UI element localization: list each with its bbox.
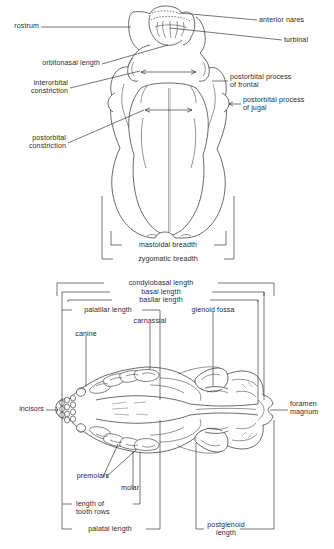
label-basilar-length: basilar length bbox=[112, 296, 210, 304]
ventral-skull-drawing bbox=[56, 367, 273, 453]
label-anterior-nares: anterior nares bbox=[259, 16, 334, 24]
label-palatal-length: palatal length bbox=[74, 525, 146, 533]
label-palatilar-length: palatilar length bbox=[74, 306, 142, 314]
dorsal-leader-lines bbox=[41, 13, 282, 259]
label-foramen-magnum: foramen magnum bbox=[290, 400, 334, 417]
label-postglenoid-length: postglenoid length bbox=[196, 521, 256, 538]
label-condylobasal-length: condylobasal length bbox=[104, 279, 218, 287]
label-turbinal: turbinal bbox=[284, 36, 334, 44]
label-zygomatic-breadth: zygomatic breadth bbox=[112, 255, 224, 263]
label-interorbital-constriction: interorbital constriction bbox=[0, 79, 68, 96]
label-postorbital-constriction: postorbital constriction bbox=[0, 134, 66, 151]
label-molar: molar bbox=[106, 484, 154, 492]
label-carnassial: carnassial bbox=[120, 317, 180, 325]
label-glenoid-fossa: glenoid fossa bbox=[182, 306, 244, 314]
label-orbitonasal-length: orbitonasal length bbox=[0, 59, 100, 67]
label-rostrum: rostrum bbox=[0, 22, 39, 30]
label-mastoidal-breadth: mastoidal breadth bbox=[118, 241, 218, 249]
label-canine: canine bbox=[62, 330, 110, 338]
canine-teeth bbox=[75, 386, 87, 433]
label-incisors: incisors bbox=[0, 405, 44, 413]
dorsal-skull-drawing bbox=[108, 6, 229, 238]
label-postorbital-process-of-jugal: postorbital process of jugal bbox=[243, 96, 334, 113]
skull-measurement-figure: rostrum orbitonasal length interorbital … bbox=[0, 0, 334, 549]
label-length-of-tooth-rows: length of tooth rows bbox=[76, 500, 138, 517]
label-postorbital-process-of-frontal: postorbital process of frontal bbox=[230, 73, 334, 90]
label-premolars: premolars bbox=[62, 472, 124, 480]
